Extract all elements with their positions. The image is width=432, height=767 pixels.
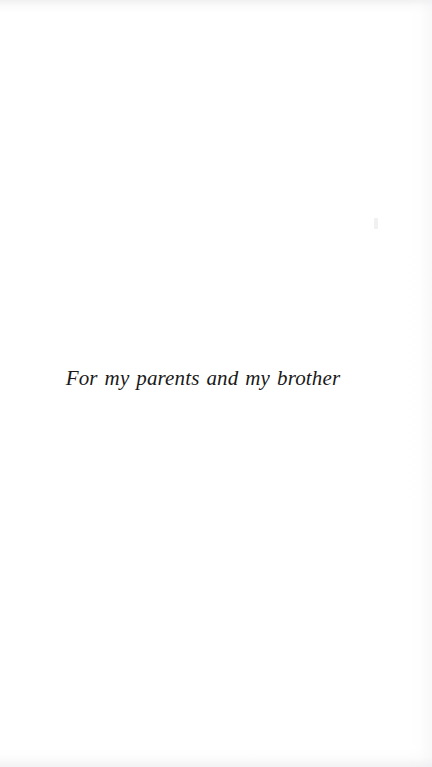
dedication-page: For my parents and my brother bbox=[0, 0, 432, 767]
scan-edge-bottom bbox=[0, 749, 432, 767]
paper-speck bbox=[374, 218, 378, 229]
dedication-text: For my parents and my brother bbox=[66, 364, 341, 392]
dedication-block: For my parents and my brother bbox=[0, 364, 432, 392]
scan-edge-top bbox=[0, 0, 432, 14]
